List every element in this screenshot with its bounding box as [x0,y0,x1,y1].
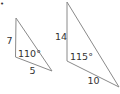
large-angle-label: 115° [70,51,93,62]
small-angle-label: 110° [18,48,41,59]
small-side-left-label: 7 [7,35,13,46]
large-side-bottom-label: 10 [88,75,100,86]
large-side-left-label: 14 [55,31,67,42]
small-triangle: 7 110° 5 [7,18,53,76]
large-triangle: 14 115° 10 [55,2,119,87]
small-side-bottom-label: 5 [30,65,36,76]
triangles-diagram: • 7 110° 5 14 115° 10 [0,0,120,94]
bullet-marker: • [0,0,4,8]
small-triangle-outline [16,18,53,71]
